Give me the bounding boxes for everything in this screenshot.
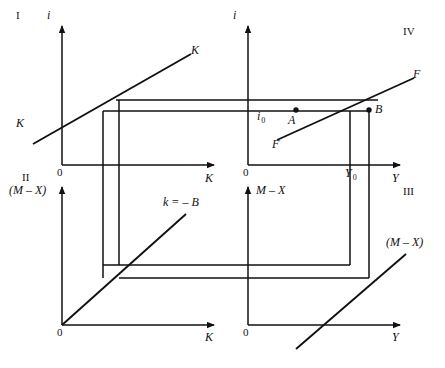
kk-curve xyxy=(33,54,191,144)
kk-curve-label-left: K xyxy=(16,117,24,129)
point-a-marker xyxy=(293,107,298,112)
point-b-marker xyxy=(366,107,371,112)
quadrant-four-numeral: IV xyxy=(403,26,415,37)
q4-y-zero-subscript: 0 xyxy=(353,173,357,182)
q4-i-zero-base: i xyxy=(257,109,260,123)
quadrant-one-numeral: I xyxy=(16,10,20,21)
q4-i-zero-subscript: 0 xyxy=(261,116,265,125)
quadrant-two-numeral: II xyxy=(22,172,29,183)
q1-x-axis-label: K xyxy=(205,172,213,184)
q1-y-axis-label: i xyxy=(47,9,50,21)
q4-origin-label: 0 xyxy=(243,167,249,178)
q4-y-zero-label: Y0 xyxy=(345,167,356,179)
k-equals-minus-b-label: k = – B xyxy=(163,196,199,208)
m-minus-x-curve-label: (M – X) xyxy=(386,236,423,248)
q2-x-axis-label: K xyxy=(205,331,213,343)
four-quadrant-figure: I i K 0 K K IV i Y 0 i0 Y0 A B F F II (M… xyxy=(0,0,445,368)
q4-y-zero-base: Y xyxy=(345,166,352,180)
diagram-canvas xyxy=(0,0,445,368)
q2-y-axis-label: (M – X) xyxy=(9,184,46,196)
q3-origin-label: 0 xyxy=(243,327,249,338)
q4-y-axis-label: i xyxy=(233,9,236,21)
point-a-label: A xyxy=(288,114,295,126)
kk-curve-label-right: K xyxy=(191,44,199,56)
q3-x-axis-label: Y xyxy=(392,331,399,343)
ff-curve-label-right: F xyxy=(413,68,420,80)
q4-x-axis-label: Y xyxy=(392,172,399,184)
q3-y-axis-label: M – X xyxy=(256,184,285,196)
ff-curve-label-left: F xyxy=(272,138,279,150)
q1-origin-label: 0 xyxy=(57,167,63,178)
q4-i-zero-label: i0 xyxy=(257,110,264,122)
q2-origin-label: 0 xyxy=(57,327,63,338)
point-b-label: B xyxy=(375,103,382,115)
m-minus-x-curve xyxy=(296,254,406,349)
k-equals-minus-b-curve xyxy=(62,214,186,325)
quadrant-three-numeral: III xyxy=(403,186,414,197)
